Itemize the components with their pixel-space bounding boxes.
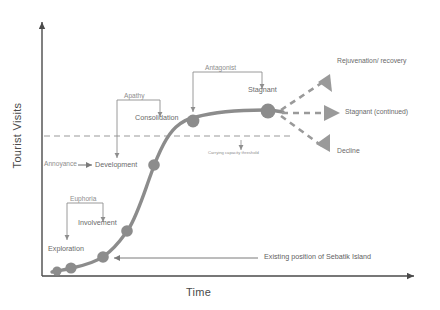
sebatik-island-callout-label: Existing position of Sebatik Island [264,253,371,260]
stage-label-involvement: Involvement [78,219,117,226]
node-origin [52,266,61,275]
branch-rejuvenation-arrowhead [318,74,332,92]
force-label-annoyance: Annoyance [44,161,77,168]
branch-label-rejuvenation: Rejuvenation/ recovery [337,58,407,65]
stage-label-exploration: Exploration [48,245,84,252]
stage-label-development: Development [95,161,137,168]
node-consolidation [148,159,160,171]
force-label-antagonist: Antagonist [205,65,236,72]
force-label-apathy: Apathy [124,93,145,100]
branch-stagnant-continued-arrowhead [324,105,340,121]
stage-label-stagnant: Stagnant [248,86,277,93]
x-axis-label: Time [186,287,211,298]
branch-decline-arrowhead [316,134,330,152]
node-development [121,225,133,237]
node-stagnant [187,115,200,128]
branch-rejuvenation-line [281,80,326,110]
node-involvement [97,251,109,263]
future-branches [281,74,340,152]
branch-label-decline: Decline [337,148,360,155]
branch-decline-line [281,116,322,146]
apathy-connector [117,100,160,158]
force-label-euphoria: Euphoria [70,196,96,203]
stage-label-consolidation: Consolidation [135,114,179,121]
node-stagnant-end [261,104,276,119]
tourism-lifecycle-diagram: Tourist Visits Time Exploration Involvem… [0,0,440,310]
y-axis-label: Tourist Visits [12,91,23,181]
lifecycle-nodes [52,104,275,276]
node-exploration [65,262,76,273]
branch-label-stagnant-continued: Stagnant (continued) [345,109,408,116]
threshold-label: Carrying capacity threshold [208,151,259,155]
lifecycle-curve [52,110,283,272]
